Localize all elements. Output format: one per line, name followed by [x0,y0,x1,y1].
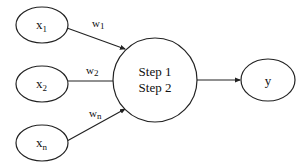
weight-label-wn: wn [89,107,102,121]
input-x2-sub: 2 [43,83,48,93]
edge-x1-to-processor [67,28,125,49]
output-y-label: y [265,73,272,88]
processor-node: Step 1 Step 2 [113,38,197,122]
input-x1-sub: 1 [43,24,48,34]
input-node-x1: x1 [16,7,68,43]
neuron-diagram: x1 x2 xn w1 w2 wn Step 1 Step 2 y [0,0,304,168]
weight-label-w1: w1 [92,17,104,31]
processor-step1-label: Step 1 [139,64,172,79]
input-xn-sub: n [43,142,48,152]
input-node-xn: xn [16,125,68,161]
weight-label-w2: w2 [86,64,98,78]
processor-step2-label: Step 2 [139,80,172,95]
output-node-y: y [241,59,295,101]
input-node-x2: x2 [16,66,68,102]
